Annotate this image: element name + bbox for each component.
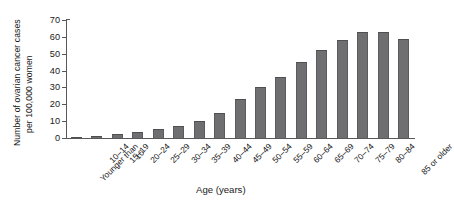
bar (398, 39, 409, 138)
y-axis-title-line-2: per 100,000 women (24, 55, 34, 133)
y-tick-label: 60 (50, 32, 60, 42)
x-tick-label: 80–84 (394, 142, 417, 165)
x-tick-label: 55–59 (292, 142, 315, 165)
bar (132, 132, 143, 138)
x-tick-label: 30–34 (189, 142, 212, 165)
bar (316, 50, 327, 138)
bar (194, 121, 205, 138)
y-tick-mark (62, 104, 66, 105)
bar (296, 62, 307, 138)
x-tick-label: 60–64 (312, 142, 335, 165)
y-tick-label: 20 (50, 99, 60, 109)
y-tick-label: 10 (50, 116, 60, 126)
bar (71, 137, 82, 138)
y-tick-mark (62, 37, 66, 38)
y-tick-mark (62, 20, 66, 21)
bar (337, 40, 348, 138)
x-tick-label: 20–24 (148, 142, 171, 165)
y-axis-title: Number of ovarian cancer cases per 100,0… (0, 0, 46, 150)
bar (378, 32, 389, 138)
y-tick-label: 70 (50, 15, 60, 25)
x-tick-label: 65–69 (333, 142, 356, 165)
y-tick-mark (62, 121, 66, 122)
y-tick-label: 30 (50, 82, 60, 92)
x-tick-label: 40–44 (230, 142, 253, 165)
bar (91, 136, 102, 138)
bar (112, 134, 123, 138)
y-axis-title-line-1: Number of ovarian cancer cases (12, 19, 22, 146)
y-tick-mark (62, 87, 66, 88)
y-tick-label: 40 (50, 66, 60, 76)
x-tick-label: 35–39 (210, 142, 233, 165)
plot-area: 010203040506070 (66, 20, 414, 138)
x-tick-label: 25–29 (169, 142, 192, 165)
x-tick-label: 70–74 (353, 142, 376, 165)
bar (173, 126, 184, 138)
bar (214, 113, 225, 138)
bar (357, 32, 368, 138)
y-tick-mark (62, 138, 66, 139)
x-tick-label: 45–49 (251, 142, 274, 165)
y-tick-mark (62, 71, 66, 72)
x-tick-label: 50–54 (271, 142, 294, 165)
y-tick-mark (62, 54, 66, 55)
y-tick-label: 0 (55, 133, 60, 143)
x-tick-label: 75–79 (374, 142, 397, 165)
bar (153, 129, 164, 138)
bar (275, 77, 286, 138)
x-axis-title: Age (years) (196, 184, 246, 195)
x-tick-label: 85 or older (419, 142, 454, 177)
y-tick-label: 50 (50, 49, 60, 59)
bar (255, 87, 266, 138)
x-axis-line (66, 138, 415, 139)
bar (235, 99, 246, 138)
